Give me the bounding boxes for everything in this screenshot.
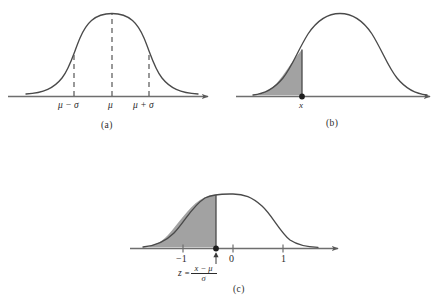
panel-c-z-formula: z = x − μ σ xyxy=(178,264,215,282)
panel-a-graphics xyxy=(8,14,208,97)
panel-b-shaded-tail xyxy=(253,50,302,96)
panel-c-graphics xyxy=(130,194,338,264)
panel-b-point-label-x: x xyxy=(299,100,303,110)
z-variable: z xyxy=(178,268,182,278)
panel-c-tick-label-one: 1 xyxy=(281,253,286,264)
panel-c-tick-label-zero: 0 xyxy=(229,253,234,264)
panel-c-point-z-dot xyxy=(213,246,219,252)
panel-a-tick-label-mu-minus-sigma: μ − σ xyxy=(58,100,79,110)
panel-a-curve xyxy=(26,14,198,95)
panel-b-curve xyxy=(253,14,427,96)
figure-root: μ − σ μ μ + σ (a) x (b) −1 0 1 z = x − μ… xyxy=(0,0,446,306)
panel-b-point-x-dot xyxy=(299,94,305,100)
z-fraction: x − μ σ xyxy=(193,264,215,282)
panel-a-tick-label-mu: μ xyxy=(108,100,113,110)
panel-c-tick-label-minus-one: −1 xyxy=(176,253,187,264)
normal-distribution-figure xyxy=(0,0,446,306)
panel-c-label: (c) xyxy=(233,284,245,294)
z-fraction-denominator: σ xyxy=(191,273,217,283)
panel-a-label: (a) xyxy=(101,120,113,130)
panel-c-formula-leader-arrowhead xyxy=(213,252,218,257)
panel-c-shaded-tail xyxy=(143,195,216,247)
panel-b-label: (b) xyxy=(326,118,338,128)
panel-a-tick-label-mu-plus-sigma: μ + σ xyxy=(133,100,154,110)
equals-sign: = xyxy=(184,268,191,278)
panel-b-graphics xyxy=(236,14,430,100)
z-fraction-numerator: x − μ xyxy=(193,264,215,273)
